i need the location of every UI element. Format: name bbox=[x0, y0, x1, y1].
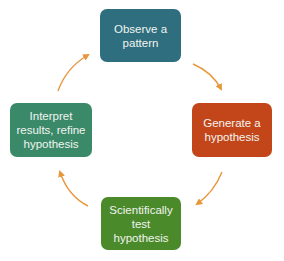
node-scientifically-test-hypothesis: Scientifically test hypothesis bbox=[101, 197, 181, 250]
arrow-test-to-interpret bbox=[60, 172, 88, 206]
node-label: Interpret results, refine hypothesis bbox=[16, 109, 85, 151]
arrow-observe-to-generate bbox=[193, 64, 221, 89]
node-label: Observe a pattern bbox=[114, 22, 167, 50]
node-observe-pattern: Observe a pattern bbox=[100, 9, 181, 62]
node-label: Generate a hypothesis bbox=[203, 116, 261, 144]
arrow-interpret-to-observe bbox=[58, 55, 88, 91]
node-generate-hypothesis: Generate a hypothesis bbox=[192, 103, 272, 157]
arrow-generate-to-test bbox=[197, 172, 222, 204]
scientific-method-cycle-diagram: Observe a pattern Generate a hypothesis … bbox=[0, 0, 284, 261]
node-interpret-results: Interpret results, refine hypothesis bbox=[10, 103, 92, 157]
node-label: Scientifically test hypothesis bbox=[109, 203, 172, 245]
